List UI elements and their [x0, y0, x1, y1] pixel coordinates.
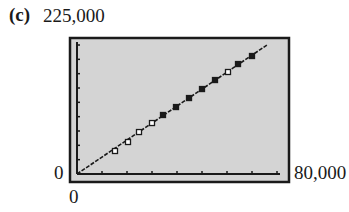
plot-frame — [70, 38, 289, 182]
filled-square-marker — [250, 54, 255, 59]
open-square-marker — [126, 140, 131, 145]
filled-square-marker — [161, 113, 166, 118]
filled-square-marker — [213, 78, 218, 83]
open-square-marker — [137, 130, 142, 135]
open-square-marker — [113, 149, 118, 154]
filled-square-marker — [187, 96, 192, 101]
filled-square-marker — [200, 87, 205, 92]
open-square-marker — [150, 121, 155, 126]
filled-square-marker — [236, 62, 241, 67]
open-square-marker — [226, 70, 231, 75]
calculator-plot — [0, 0, 349, 212]
filled-square-marker — [174, 105, 179, 110]
